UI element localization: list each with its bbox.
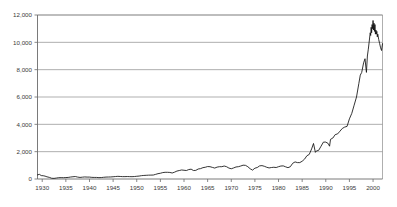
x-tick-label: 1965 — [201, 184, 215, 191]
x-tick-labels-group: 1930193519401945195019551960196519701975… — [35, 184, 380, 191]
x-tick-label: 1970 — [224, 184, 238, 191]
line-chart: 02,0004,0006,0008,00010,00012,000 193019… — [0, 0, 397, 207]
y-tick-label: 6,000 — [17, 93, 33, 100]
x-tick-label: 2000 — [366, 184, 380, 191]
x-tick-label: 1930 — [35, 184, 49, 191]
x-tick-label: 1985 — [295, 184, 309, 191]
y-tick-label: 8,000 — [17, 66, 33, 73]
y-tick-label: 4,000 — [17, 121, 33, 128]
x-tick-label: 1975 — [248, 184, 262, 191]
series-line-index-level — [38, 20, 383, 178]
y-tick-label: 0 — [29, 175, 33, 182]
x-tick-label: 1980 — [272, 184, 286, 191]
x-tick-label: 1950 — [130, 184, 144, 191]
x-tick-label: 1990 — [319, 184, 333, 191]
y-tick-label: 10,000 — [13, 39, 32, 46]
x-tick-label: 1940 — [83, 184, 97, 191]
x-tick-label: 1955 — [153, 184, 167, 191]
x-tick-label: 1935 — [59, 184, 73, 191]
x-tick-label: 1960 — [177, 184, 191, 191]
gridlines-group — [38, 15, 383, 152]
chart-figure: 02,0004,0006,0008,00010,00012,000 193019… — [0, 0, 397, 207]
data-series-group — [38, 20, 383, 178]
x-tick-label: 1945 — [106, 184, 120, 191]
x-tick-label: 1995 — [343, 184, 357, 191]
y-tick-labels-group: 02,0004,0006,0008,00010,00012,000 — [13, 11, 32, 182]
y-tick-label: 12,000 — [13, 11, 32, 18]
y-tick-label: 2,000 — [17, 148, 33, 155]
